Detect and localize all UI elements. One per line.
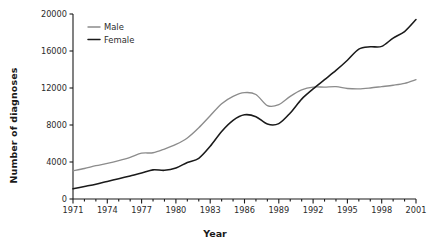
legend-label-male: Male	[104, 22, 124, 32]
x-axis-title: Year	[0, 228, 430, 239]
y-tick-label: 0	[62, 194, 67, 204]
series-line-male	[73, 80, 416, 171]
x-tick-label: 1977	[131, 205, 152, 215]
series-layer	[73, 20, 416, 189]
x-tick-label: 1986	[234, 205, 255, 215]
x-tick-label: 1983	[200, 205, 221, 215]
line-chart: 0400080001200016000200001971197419771980…	[0, 0, 430, 250]
y-tick-label: 20000	[41, 9, 67, 19]
x-tick-label: 1998	[371, 205, 392, 215]
chart-figure: 0400080001200016000200001971197419771980…	[0, 0, 430, 250]
x-tick-label: 1971	[63, 205, 84, 215]
legend-layer: MaleFemale	[88, 22, 134, 44]
x-tick-label: 1995	[337, 205, 358, 215]
x-tick-label: 1974	[97, 205, 118, 215]
series-line-female	[73, 20, 416, 189]
y-tick-label: 4000	[46, 157, 67, 167]
x-tick-label: 2001	[406, 205, 427, 215]
legend-label-female: Female	[104, 35, 134, 45]
y-tick-label: 16000	[41, 46, 67, 56]
x-tick-label: 1980	[165, 205, 186, 215]
y-tick-label: 8000	[46, 120, 67, 130]
y-tick-label: 12000	[41, 83, 67, 93]
x-tick-label: 1992	[303, 205, 324, 215]
x-tick-label: 1989	[268, 205, 289, 215]
